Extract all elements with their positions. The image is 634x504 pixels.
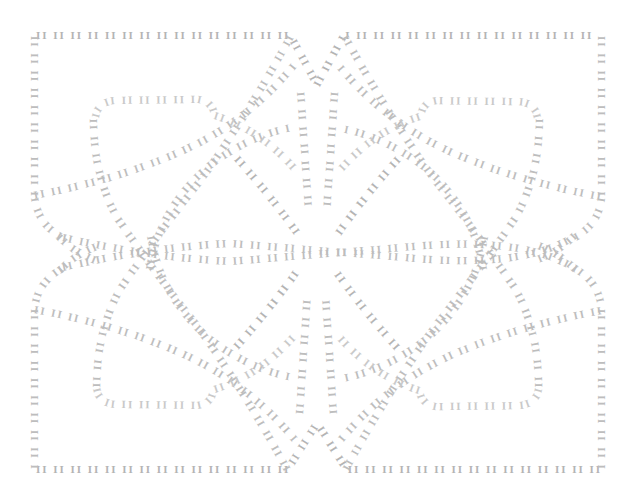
glyph-text-layer: II II II II II II II II II II II II II I… (0, 0, 608, 475)
glyph-run-spine-bottom: II II II II II II II II II II (0, 0, 313, 414)
glyph-run-outer-top: II II II II II II II II II II II II II I… (0, 0, 598, 88)
glyph-run-loop-tr: II II II II II II II II II II II II II I… (0, 0, 543, 120)
knot-pattern-svg: II II II II II II II II II II II II II I… (0, 0, 634, 504)
text-path-knot-canvas: II II II II II II II II II II II II II I… (0, 0, 634, 504)
